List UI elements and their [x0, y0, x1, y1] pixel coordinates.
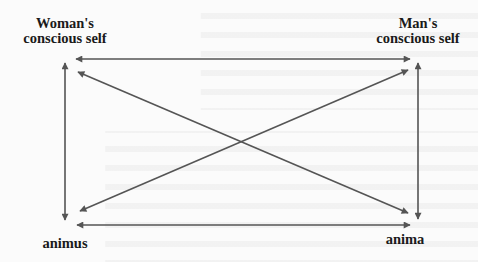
arrow-woman-anima [78, 72, 408, 213]
node-label: animus [25, 236, 105, 251]
node-woman-conscious-self: Woman's conscious self [5, 16, 125, 46]
node-label: anima [365, 232, 445, 247]
arrow-man-animus [80, 70, 408, 211]
node-label-line2: conscious self [358, 31, 478, 46]
node-label-line1: Man's [358, 16, 478, 31]
node-label-line2: conscious self [5, 31, 125, 46]
node-animus: animus [25, 236, 105, 251]
node-anima: anima [365, 232, 445, 247]
node-man-conscious-self: Man's conscious self [358, 16, 478, 46]
node-label-line1: Woman's [5, 16, 125, 31]
